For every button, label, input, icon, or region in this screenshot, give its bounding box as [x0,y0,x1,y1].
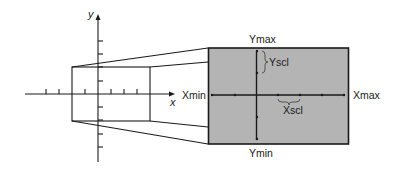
ymax-label: Ymax [249,33,277,45]
xscl-label: Xscl [283,104,303,116]
projection-line-bottom-inner [150,121,208,127]
coordinate-plane [25,14,208,162]
y-axis-label: y [87,8,95,20]
yscl-label: Yscl [269,56,289,68]
x-axis-label: x [169,96,176,108]
y-axis-arrow-icon [96,14,101,20]
x-axis-ticks [46,89,137,94]
projection-line-top-inner [150,62,208,67]
viewing-window-diagram: y x Ymax Ymin Xmin Xmax Yscl Xscl [0,0,395,171]
xmin-label: Xmin [182,89,206,101]
xmax-label: Xmax [353,89,381,101]
ymin-label: Ymin [249,147,273,159]
